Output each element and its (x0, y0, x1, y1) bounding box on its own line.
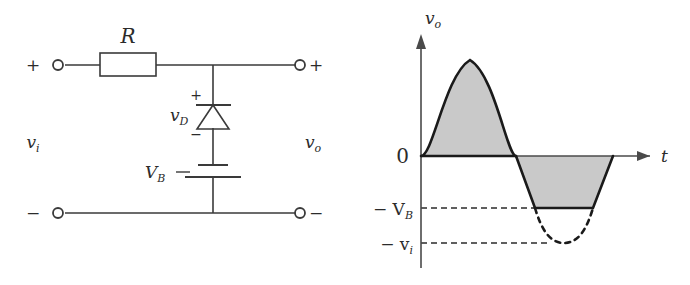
output-waveform-plot: vo t 0 − VB − vi (345, 0, 690, 285)
t-axis-arrowhead (637, 151, 650, 161)
output-voltage-label: vo (305, 132, 322, 155)
v-axis-arrowhead (416, 34, 426, 49)
figure-container: + − + − R vi vo vD + − VB (0, 0, 690, 285)
diode-voltage-label: vD (170, 105, 189, 128)
y-axis-label: vo (425, 8, 442, 31)
output-terminal-negative[interactable] (295, 208, 305, 218)
diode-plus-sign: + (190, 87, 202, 103)
diode-minus-sign: − (190, 126, 202, 142)
input-minus-sign: − (26, 203, 40, 223)
input-terminal-negative[interactable] (53, 208, 63, 218)
origin-tick-label: 0 (396, 144, 409, 168)
output-terminal-positive[interactable] (295, 60, 305, 70)
shaded-clipped-lobe (516, 156, 613, 208)
circuit-schematic: + − + − R vi vo vD + − VB (0, 0, 345, 285)
unclipped-input-sine-dashed (535, 208, 593, 243)
shaded-positive-lobe (421, 60, 516, 156)
resistor-R (100, 53, 156, 76)
output-plus-sign: + (309, 55, 323, 75)
output-minus-sign: − (309, 203, 323, 223)
input-voltage-label: vi (26, 132, 39, 155)
battery-label: VB (145, 162, 165, 185)
input-terminal-positive[interactable] (53, 60, 63, 70)
resistor-label: R (119, 24, 135, 48)
minus-vi-tick-label: − vi (380, 234, 413, 257)
x-axis-label: t (661, 146, 668, 166)
input-plus-sign: + (26, 55, 40, 75)
minus-VB-tick-label: − VB (373, 199, 413, 222)
